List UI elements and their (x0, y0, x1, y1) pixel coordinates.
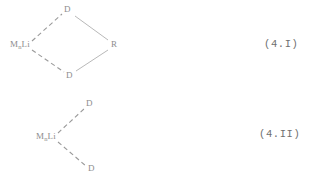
bond-li-upper-d (58, 108, 85, 133)
bond-top-d-r (75, 16, 108, 40)
atom-label-substituent-4-I: R (111, 40, 117, 49)
bond-li-bottom-d (32, 50, 64, 72)
metal-element-4-II: M (36, 131, 44, 141)
atom-label-lower-donor-4-II: D (88, 164, 95, 173)
atom-label-bottom-donor-4-I: D (66, 71, 73, 80)
metal-symbol-4-II: Mn (36, 132, 47, 143)
bond-li-top-d (32, 14, 62, 41)
bond-li-lower-d (58, 142, 86, 166)
structure-4-I-bonds (0, 0, 314, 185)
metal-element-4-I: M (10, 39, 18, 49)
atom-label-top-donor-4-I: D (64, 5, 71, 14)
atom-label-metal-lithium-4-I: MnLi (10, 40, 30, 51)
figure-page: D MnLi R D (4.I) D MnLi D (4.II) (0, 0, 314, 185)
lithium-symbol-4-II: Li (47, 131, 55, 141)
metal-symbol-4-I: Mn (10, 40, 21, 51)
bond-bottom-d-r (76, 50, 108, 71)
equation-number-4-II: (4.II) (259, 128, 300, 140)
atom-label-metal-lithium-4-II: MnLi (36, 132, 56, 143)
equation-number-4-I: (4.I) (264, 38, 299, 50)
atom-label-upper-donor-4-II: D (86, 99, 93, 108)
lithium-symbol-4-I: Li (21, 39, 29, 49)
